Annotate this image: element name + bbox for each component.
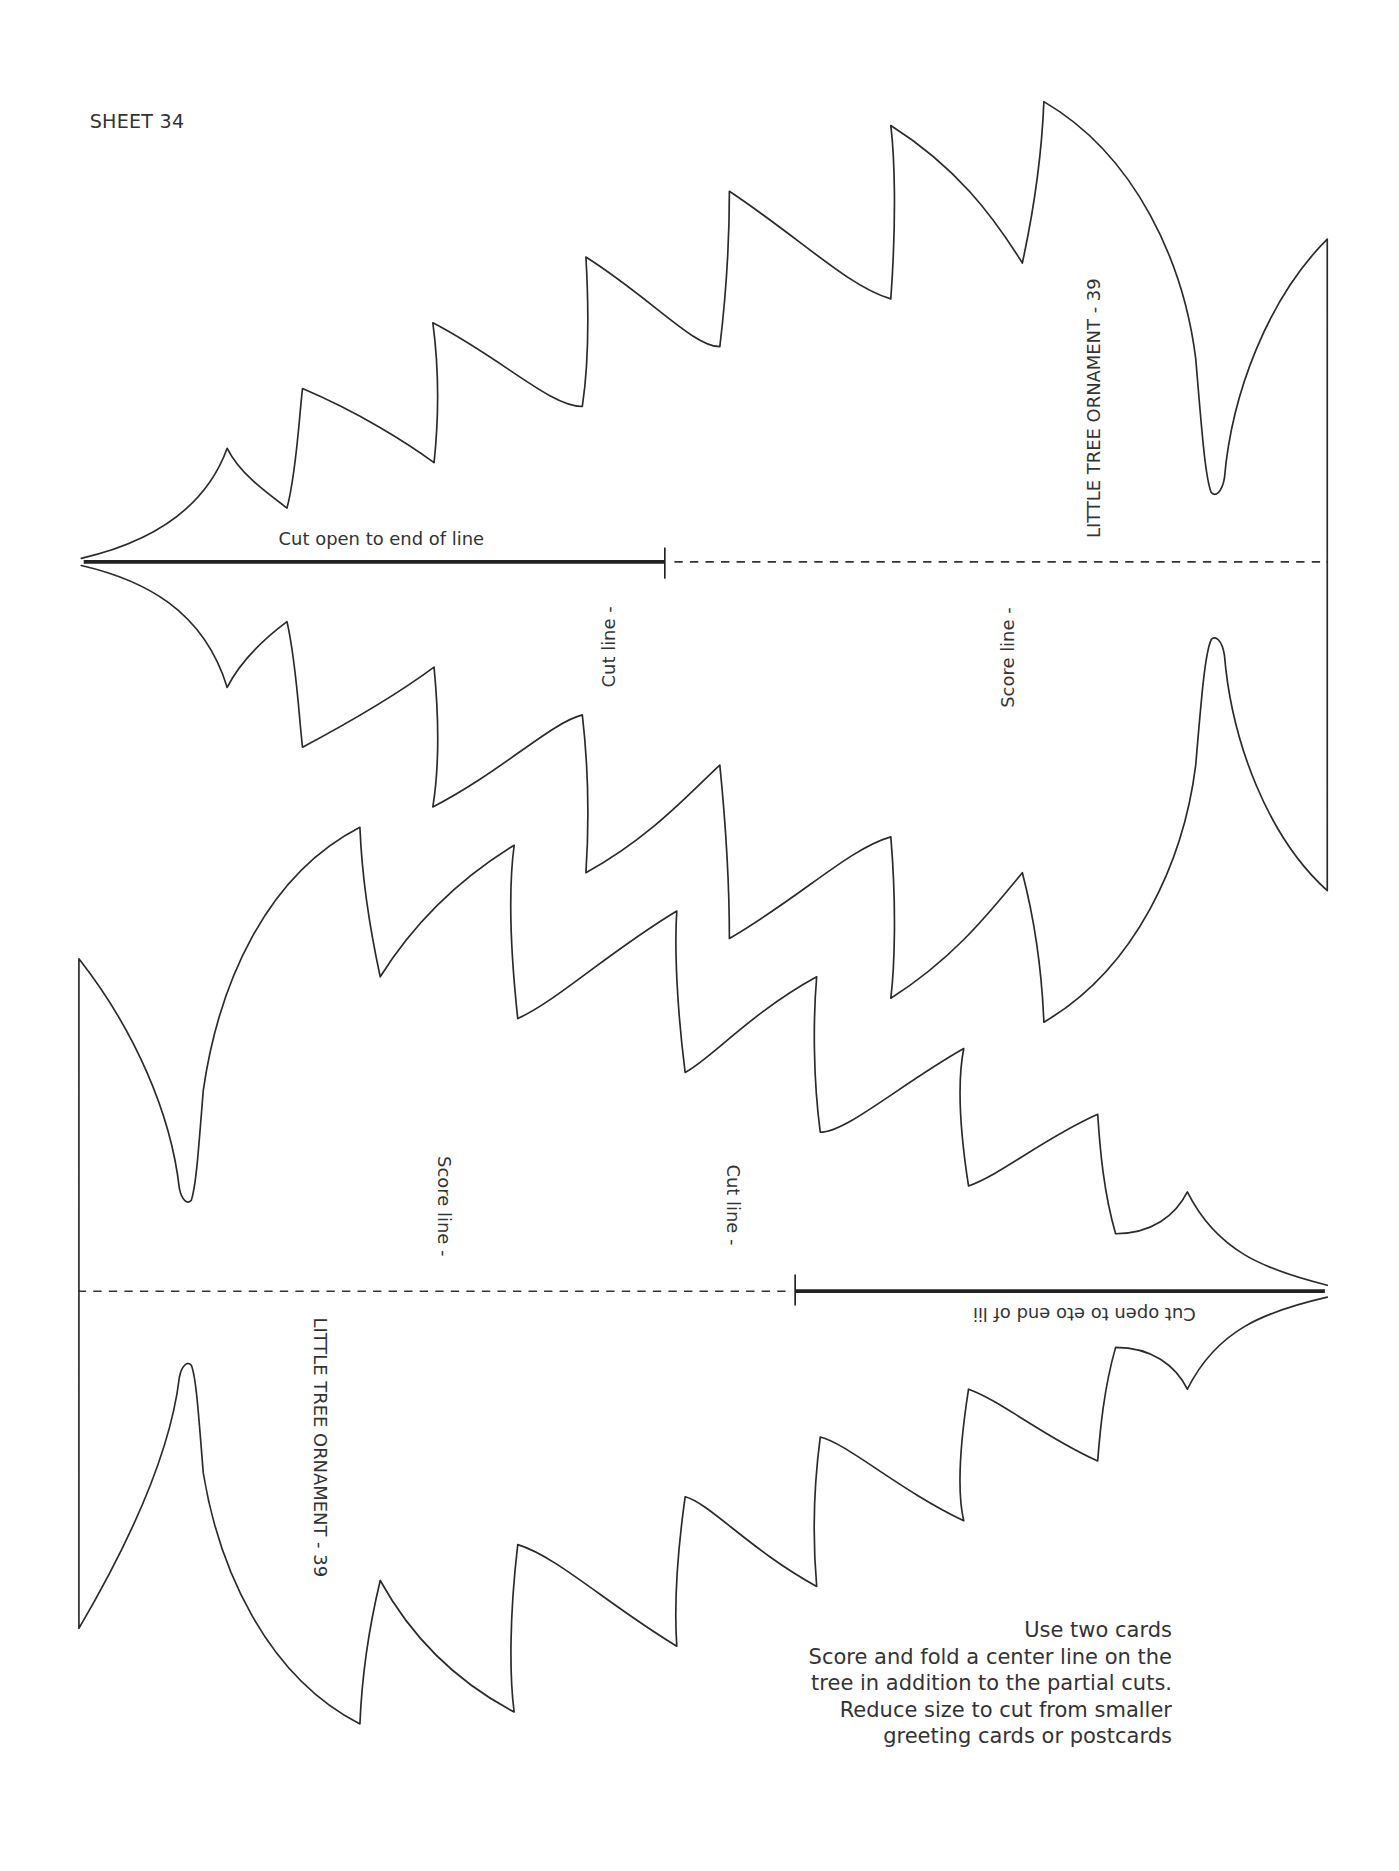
tree-outline-lower xyxy=(79,827,1327,1291)
cut-instruction-label: Cut open to eto end of lii xyxy=(973,1304,1196,1325)
tree-outline-upper xyxy=(81,102,1327,562)
tree-template-bottom: Cut open to eto end of lii Cut line - Sc… xyxy=(79,827,1327,1724)
tree-template-top: Cut open to end of line Cut line - Score… xyxy=(81,102,1327,1023)
score-line-label: Score line - xyxy=(997,607,1018,707)
score-line-label: Score line - xyxy=(434,1156,455,1256)
instruction-line: tree in addition to the partial cuts. xyxy=(809,1670,1172,1697)
template-sheet: SHEET 34 Cut open to end of line Cut lin… xyxy=(0,0,1399,1871)
instruction-line: Use two cards xyxy=(809,1617,1172,1644)
cut-instruction-label: Cut open to end of line xyxy=(279,528,485,549)
instructions-block: Use two cards Score and fold a center li… xyxy=(809,1617,1172,1750)
template-name-label: LITTLE TREE ORNAMENT - 39 xyxy=(310,1317,331,1577)
cut-line-label: Cut line - xyxy=(598,606,619,687)
template-name-label: LITTLE TREE ORNAMENT - 39 xyxy=(1083,278,1104,538)
tree-outline-lower xyxy=(81,562,1327,1022)
sheet-title: SHEET 34 xyxy=(90,110,185,133)
instruction-line: Score and fold a center line on the xyxy=(809,1644,1172,1671)
instruction-line: Reduce size to cut from smaller xyxy=(809,1697,1172,1724)
instruction-line: greeting cards or postcards xyxy=(809,1723,1172,1750)
cut-line-label: Cut line - xyxy=(723,1164,744,1245)
